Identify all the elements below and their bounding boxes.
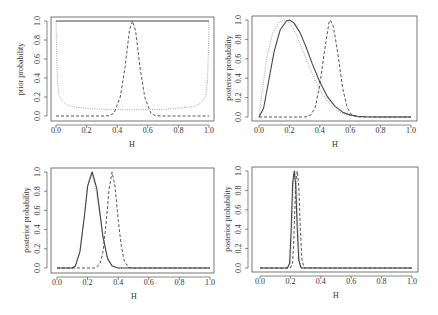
y-tick-label: 1.0	[234, 166, 243, 176]
series-line-solid	[260, 171, 412, 268]
plot-frame	[51, 168, 214, 273]
x-tick-label: 0.4	[316, 277, 326, 286]
x-tick-label: 0.2	[82, 126, 92, 135]
y-tick-label: 1.0	[33, 16, 42, 26]
x-tick-label: 0.2	[284, 126, 294, 135]
series-layer	[57, 172, 210, 268]
series-line-dashed	[57, 172, 210, 268]
panel-bottom-left: 0.00.20.40.60.81.0 0.00.20.40.60.81.0 H …	[22, 167, 215, 301]
series-line-dashed	[56, 21, 209, 116]
panel-top-right: 0.00.20.40.60.81.0 0.00.20.40.60.81.0 H …	[224, 15, 417, 149]
y-tick-label: 0.4	[33, 225, 42, 235]
y-tick-label: 0.6	[234, 205, 243, 215]
figure: 0.00.20.40.60.81.0 0.00.20.40.60.81.0 H …	[0, 0, 438, 315]
series-line-dashed	[260, 171, 412, 268]
panel-top-left: 0.00.20.40.60.81.0 0.00.20.40.60.81.0 H …	[16, 16, 214, 149]
x-tick-label: 0.4	[315, 126, 325, 135]
series-layer	[260, 171, 412, 268]
y-tick-label: 0.2	[33, 92, 42, 102]
y-axis: 0.00.20.40.60.81.0	[33, 167, 47, 273]
x-tick-label: 0.0	[255, 277, 265, 286]
x-axis-title: H	[131, 292, 137, 301]
x-tick-label: 0.0	[254, 126, 264, 135]
y-tick-label: 0.0	[33, 263, 42, 273]
y-axis-title: posterior probability	[224, 35, 233, 101]
x-axis: 0.00.20.40.60.81.0	[255, 276, 417, 286]
x-axis-title: H	[333, 291, 339, 300]
y-axis-title: posterior probability	[223, 186, 232, 252]
series-layer	[259, 20, 411, 117]
y-tick-label: 0.0	[234, 112, 243, 122]
x-tick-label: 0.2	[285, 277, 295, 286]
y-axis: 0.00.20.40.60.81.0	[234, 15, 248, 122]
x-axis: 0.00.20.40.60.81.0	[51, 125, 214, 135]
series-line-solid	[57, 172, 210, 268]
y-axis: 0.00.20.40.60.81.0	[234, 166, 248, 273]
y-axis-title: posterior probability	[22, 187, 31, 253]
y-tick-label: 0.6	[234, 54, 243, 64]
x-tick-label: 0.6	[346, 277, 356, 286]
x-tick-label: 0.6	[144, 278, 154, 287]
x-tick-label: 0.8	[377, 277, 387, 286]
y-tick-label: 0.0	[234, 263, 243, 273]
x-axis-title: H	[332, 140, 338, 149]
x-tick-label: 0.6	[345, 126, 355, 135]
y-tick-label: 0.6	[33, 205, 42, 215]
y-tick-label: 0.0	[33, 111, 42, 121]
y-tick-label: 0.8	[234, 185, 243, 195]
plot-frame	[252, 167, 418, 272]
y-axis: 0.00.20.40.60.81.0	[33, 16, 47, 121]
x-tick-label: 0.0	[52, 278, 62, 287]
y-tick-label: 0.2	[234, 93, 243, 103]
series-line-dashed	[259, 20, 411, 117]
series-line-dotted	[56, 21, 209, 110]
series-line-dotted	[57, 172, 210, 268]
x-tick-label: 0.0	[51, 126, 61, 135]
y-tick-label: 0.6	[33, 54, 42, 64]
y-tick-label: 0.8	[33, 35, 42, 45]
plot-frame	[51, 17, 214, 121]
y-tick-label: 1.0	[33, 167, 42, 177]
x-tick-label: 0.4	[113, 278, 123, 287]
series-layer	[56, 21, 209, 116]
y-tick-label: 0.4	[33, 73, 42, 83]
x-tick-label: 0.8	[376, 126, 386, 135]
y-tick-label: 0.8	[234, 34, 243, 44]
y-tick-label: 0.4	[234, 224, 243, 234]
y-tick-label: 0.2	[33, 244, 42, 254]
x-tick-label: 0.2	[83, 278, 93, 287]
x-tick-label: 1.0	[204, 126, 214, 135]
panel-bottom-right: 0.00.20.40.60.81.0 0.00.20.40.60.81.0 H …	[223, 166, 418, 300]
y-axis-title: prior probability	[16, 43, 25, 96]
series-line-dotted	[260, 171, 412, 268]
x-tick-label: 0.4	[112, 126, 122, 135]
y-tick-label: 1.0	[234, 15, 243, 25]
x-tick-label: 0.8	[174, 278, 184, 287]
x-tick-label: 1.0	[406, 126, 416, 135]
x-axis: 0.00.20.40.60.81.0	[52, 277, 215, 287]
x-tick-label: 1.0	[205, 278, 215, 287]
y-tick-label: 0.8	[33, 186, 42, 196]
y-tick-label: 0.2	[234, 244, 243, 254]
x-axis: 0.00.20.40.60.81.0	[254, 125, 416, 135]
x-tick-label: 0.6	[143, 126, 153, 135]
x-axis-title: H	[129, 140, 135, 149]
x-tick-label: 0.8	[173, 126, 183, 135]
x-tick-label: 1.0	[407, 277, 417, 286]
y-tick-label: 0.4	[234, 73, 243, 83]
